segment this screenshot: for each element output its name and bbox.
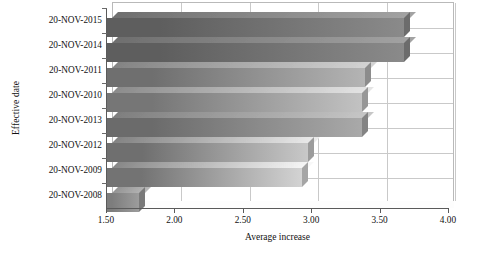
y-axis-tick-mark [102,83,107,84]
bar [106,112,362,131]
bar-front-face [106,68,365,87]
x-axis-tick-mark [243,209,244,213]
y-axis-title: Effective date [4,0,28,215]
gridline-vertical [455,3,456,201]
y-axis-tick-label: 20-NOV-2010 [26,91,102,100]
x-axis-tick-mark [106,209,107,213]
y-axis-tick-label: 20-NOV-2009 [26,166,102,175]
y-axis-tick-label: 20-NOV-2011 [26,66,102,75]
bar-front-face [106,118,362,137]
y-axis-tick-label: 20-NOV-2014 [26,41,102,50]
x-axis-tick-mark [448,209,449,213]
bar-front-face [106,43,404,62]
x-axis-tick-label: 2.00 [166,215,182,225]
y-axis-tick-mark [102,158,107,159]
y-axis-tick-label: 20-NOV-2015 [26,16,102,25]
y-axis-tick-labels: 20-NOV-201520-NOV-201420-NOV-201120-NOV-… [26,8,102,208]
x-axis-line [106,208,449,209]
y-axis-tick-mark [102,108,107,109]
bar-front-face [106,168,302,187]
bar-front-face [106,93,362,112]
x-axis-tick-labels: 1.502.002.503.003.504.00 [0,215,483,229]
y-axis-tick-label: 20-NOV-2013 [26,116,102,125]
x-axis-tick-mark [380,209,381,213]
bar [106,12,404,31]
plot-floor-plane [106,201,454,208]
x-axis-tick-mark [311,209,312,213]
x-axis-title: Average increase [106,232,449,242]
bar-chart: Effective date 20-NOV-201520-NOV-201420-… [0,0,483,260]
bar [106,62,365,81]
x-axis-tick-mark [174,209,175,213]
y-axis-title-text: Effective date [11,80,21,134]
bar [106,187,139,206]
x-axis-tick-label: 2.50 [235,215,251,225]
y-axis-tick-mark [102,33,107,34]
bar [106,162,302,181]
x-axis-tick-label: 4.00 [440,215,456,225]
bar-front-face [106,193,139,212]
y-axis-tick-mark [102,183,107,184]
plot-area [106,8,448,208]
y-axis-tick-label: 20-NOV-2008 [26,191,102,200]
bar [106,137,308,156]
bar [106,37,404,56]
x-axis-tick-label: 3.50 [371,215,387,225]
bar-front-face [106,18,404,37]
y-axis-tick-mark [102,133,107,134]
x-axis-tick-label: 3.00 [303,215,319,225]
bar [106,87,362,106]
y-axis-tick-mark [102,8,107,9]
y-axis-tick-label: 20-NOV-2012 [26,141,102,150]
y-axis-tick-mark [102,58,107,59]
bar-front-face [106,143,308,162]
x-axis-tick-label: 1.50 [98,215,114,225]
